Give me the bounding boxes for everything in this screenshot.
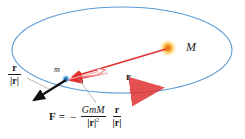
unit-vector-label: r |r| — [8, 62, 21, 86]
position-vector-r — [72, 49, 166, 77]
unit-vector-leader-line — [27, 78, 49, 89]
formula-denominator-base: |r| — [87, 117, 96, 128]
gravity-diagram: M m r r |r| F = − GmM |r|2 r |r| — [0, 0, 245, 139]
minus-sign: − — [68, 111, 78, 123]
big-mass-label: M — [186, 41, 196, 53]
force-symbol: F — [49, 111, 56, 122]
unit-vector-denominator: |r| — [8, 75, 21, 87]
small-mass-label: m — [54, 66, 60, 74]
formula-numerator: GmM — [81, 104, 106, 117]
position-vector-label: r — [126, 71, 131, 82]
formula-leader-line — [79, 79, 96, 103]
force-formula: F = − GmM |r|2 r |r| — [49, 104, 121, 129]
formula-denominator: |r|2 — [81, 117, 106, 129]
formula-unit-fraction: r |r| — [113, 104, 122, 129]
diagram-canvas — [0, 0, 245, 139]
formula-unit-numerator: r — [113, 104, 122, 117]
unit-vector-numerator: r — [8, 62, 21, 75]
formula-denominator-exponent: 2 — [96, 117, 99, 123]
elliptical-orbit — [12, 7, 232, 93]
equals-sign: = — [58, 111, 66, 122]
big-mass-core — [165, 45, 171, 51]
gravity-fraction: GmM |r|2 — [81, 104, 106, 129]
formula-unit-denominator: |r| — [113, 117, 122, 129]
